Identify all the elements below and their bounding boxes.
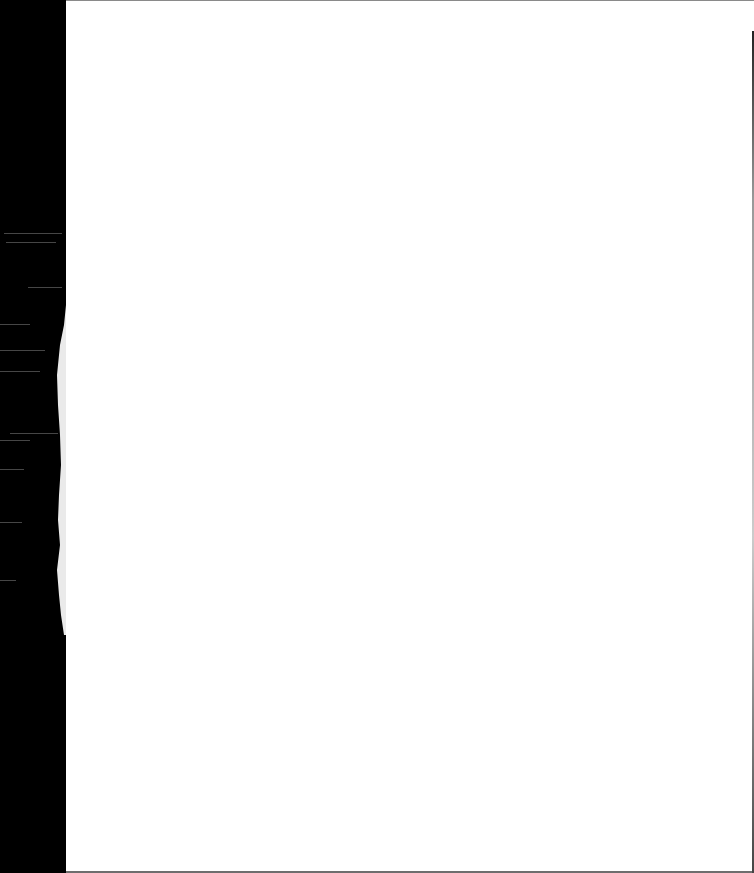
scan-streak [0, 350, 45, 351]
scan-streak [0, 469, 24, 470]
scan-streak [0, 371, 40, 372]
scan-streak [0, 580, 16, 581]
scan-streak [0, 440, 30, 441]
scanned-document [0, 0, 754, 873]
blank-page [66, 0, 754, 873]
scan-streak [6, 242, 56, 243]
scan-streak [0, 522, 22, 523]
scan-streak [28, 287, 62, 288]
scan-streak [0, 324, 30, 325]
page-content [66, 1, 754, 871]
scan-streak [4, 233, 62, 234]
scan-streak [10, 433, 58, 434]
